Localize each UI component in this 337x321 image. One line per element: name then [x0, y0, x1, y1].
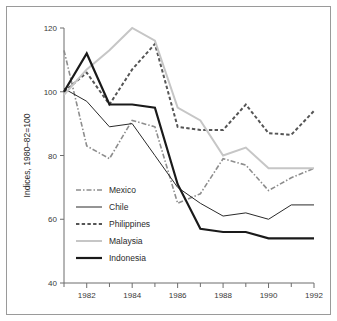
y-tick-label: 100 [44, 88, 58, 97]
chart-figure: 406080100120198219841986198819901992 Mex… [0, 0, 337, 321]
x-tick-label: 1992 [305, 291, 323, 300]
x-tick-label: 1990 [260, 291, 278, 300]
series-line-mexico [64, 50, 314, 203]
line-chart: 406080100120198219841986198819901992 Mex… [0, 0, 337, 321]
y-tick-label: 120 [44, 24, 58, 33]
y-tick-label: 60 [48, 215, 57, 224]
series-line-malaysia [64, 28, 314, 168]
y-axis-title-text: Indices, 1980–82=100 [22, 113, 32, 197]
legend-label-mexico: Mexico [109, 185, 136, 195]
x-tick-label: 1986 [169, 291, 187, 300]
series-line-indonesia [64, 54, 314, 239]
x-tick-label: 1984 [123, 291, 141, 300]
y-tick-label: 80 [48, 152, 57, 161]
legend-label-indonesia: Indonesia [109, 253, 146, 263]
x-tick-label: 1982 [78, 291, 96, 300]
series-line-chile [64, 89, 314, 220]
legend-label-chile: Chile [109, 202, 129, 212]
legend-label-philippines: Philippines [109, 219, 150, 229]
chart-legend: MexicoChilePhilippinesMalaysiaIndonesia [76, 185, 150, 263]
y-tick-label: 40 [48, 279, 57, 288]
y-axis-title: Indices, 1980–82=100 [22, 113, 32, 197]
legend-label-malaysia: Malaysia [109, 236, 143, 246]
x-tick-label: 1988 [214, 291, 232, 300]
